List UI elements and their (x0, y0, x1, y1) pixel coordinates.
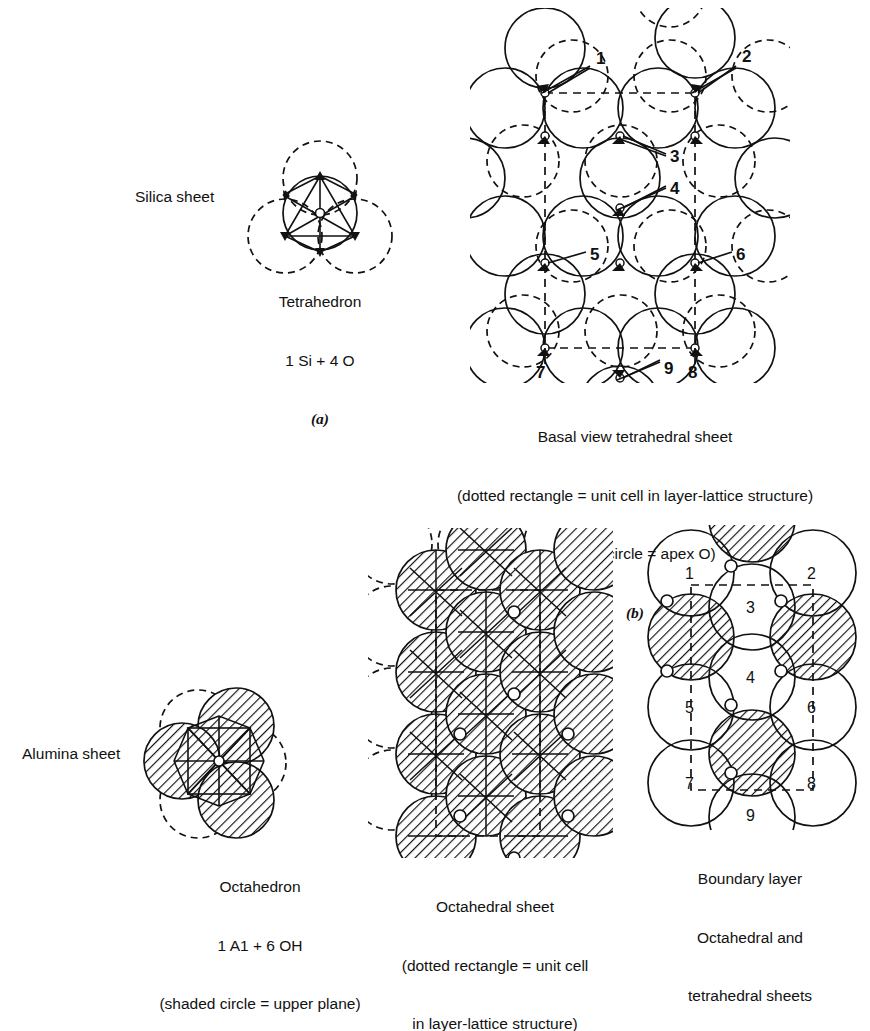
silicon-center-atom (316, 209, 325, 218)
panel-b-caption-line-1: Basal view tetrahedral sheet (455, 427, 815, 447)
panel-b-caption-line-2: (dotted rectangle = unit cell in layer-l… (455, 486, 815, 506)
panel-d-caption: Octahedral sheet (dotted rectangle = uni… (345, 858, 645, 1031)
panel-b-basal-view-figure: 1 2 3 4 5 6 7 8 9 (470, 8, 790, 383)
alumina-sheet-label: Alumina sheet (22, 744, 120, 763)
panel-a-id: (a) (185, 409, 455, 429)
panel-a-caption: Tetrahedron 1 Si + 4 O (a) (185, 253, 455, 448)
callout-number-4: 4 (670, 179, 680, 198)
e-number-6: 6 (807, 699, 816, 716)
e-number-1: 1 (685, 565, 694, 582)
e-number-9: 9 (746, 807, 755, 824)
callout-number-3: 3 (670, 147, 679, 166)
e-number-2: 2 (807, 565, 816, 582)
e-number-4: 4 (746, 669, 755, 686)
callout-number-9: 9 (664, 359, 673, 378)
callout-number-5: 5 (590, 245, 599, 264)
panel-c-octahedron-figure (140, 688, 300, 838)
panel-a-caption-line-2: 1 Si + 4 O (185, 351, 455, 371)
callout-number-7: 7 (536, 363, 545, 382)
e-number-5: 5 (685, 699, 694, 716)
panel-e-boundary-layer-figure: 1 2 3 4 5 6 7 8 9 (645, 525, 860, 830)
panel-d-caption-line-2: (dotted rectangle = unit cell (345, 956, 645, 976)
panel-e-caption: Boundary layer Octahedral and tetrahedra… (635, 830, 865, 1031)
callout-number-2: 2 (742, 47, 751, 66)
callout-number-8: 8 (688, 363, 697, 382)
e-number-3: 3 (746, 599, 755, 616)
panel-d-caption-line-1: Octahedral sheet (345, 897, 645, 917)
e-number-8: 8 (807, 775, 816, 792)
callout-number-6: 6 (736, 245, 745, 264)
panel-d-caption-line-3: in layer-lattice structure) (345, 1014, 645, 1031)
panel-e-caption-line-3: tetrahedral sheets (635, 986, 865, 1006)
e-number-7: 7 (685, 775, 694, 792)
callout-number-1: 1 (596, 49, 605, 68)
apex-oxygen-dashed-circles (487, 0, 804, 367)
silica-sheet-label: Silica sheet (135, 187, 214, 206)
panel-d-octahedral-sheet-figure (368, 528, 613, 858)
panel-a-caption-line-1: Tetrahedron (185, 292, 455, 312)
panel-e-caption-line-1: Boundary layer (635, 869, 865, 889)
panel-e-caption-line-2: Octahedral and (635, 928, 865, 948)
aluminium-center-atom (214, 756, 224, 766)
